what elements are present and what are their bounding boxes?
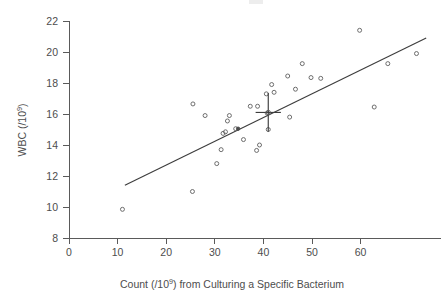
y-axis-tick-labels: 8 10 12 14 16 18 20 22: [46, 15, 58, 244]
y-tick-label-18: 18: [46, 77, 58, 89]
data-point: [255, 148, 259, 152]
x-tick-label-40: 40: [258, 246, 270, 258]
data-point: [120, 207, 124, 211]
y-tick-label-14: 14: [46, 139, 58, 151]
data-point: [300, 62, 304, 66]
data-point: [248, 104, 252, 108]
data-point: [288, 115, 292, 119]
x-axis-title-after: ) from Culturing a Specific Bacterium: [173, 278, 344, 290]
data-point: [270, 83, 274, 87]
data-point: [215, 162, 219, 166]
data-point: [236, 127, 239, 130]
data-point: [272, 90, 276, 94]
x-axis: 0 10 20 30 40 50 60: [66, 238, 441, 258]
y-tick-label-16: 16: [46, 108, 58, 120]
x-tick-label-30: 30: [209, 246, 221, 258]
scan-artifact: [249, 0, 263, 4]
data-point: [293, 87, 297, 91]
y-axis-title: WBC (/109): [15, 103, 28, 156]
data-point: [286, 74, 290, 78]
x-axis-tick-labels: 0 10 20 30 40 50 60: [66, 246, 367, 258]
data-point: [372, 105, 376, 109]
x-axis-title: Count (/109) from Culturing a Specific B…: [120, 277, 344, 290]
data-point: [414, 52, 418, 56]
y-axis-ticks: [63, 21, 69, 238]
data-point: [258, 143, 262, 147]
y-tick-label-20: 20: [46, 46, 58, 58]
data-point: [358, 28, 362, 32]
centroid-marker-layer: [256, 93, 281, 132]
x-tick-label-10: 10: [112, 246, 124, 258]
x-tick-label-60: 60: [355, 246, 367, 258]
data-point: [386, 62, 390, 66]
data-points-layer: [120, 28, 418, 211]
data-point: [227, 114, 231, 118]
y-axis: 8 10 12 14 16 18 20 22: [46, 15, 69, 244]
data-point: [241, 138, 245, 142]
data-point: [191, 102, 195, 106]
data-point: [225, 119, 229, 123]
x-tick-label-0: 0: [66, 246, 72, 258]
y-axis-title-before: WBC (/10: [16, 111, 28, 157]
data-point: [309, 76, 313, 80]
regression-line-layer: [125, 38, 426, 185]
y-axis-title-after: ): [16, 103, 28, 107]
x-tick-label-50: 50: [306, 246, 318, 258]
data-point: [256, 104, 260, 108]
y-tick-label-10: 10: [46, 201, 58, 213]
x-axis-ticks: [69, 238, 361, 244]
data-point: [203, 114, 207, 118]
y-tick-label-22: 22: [46, 15, 58, 27]
x-axis-title-before: Count (/10: [120, 278, 169, 290]
plot-canvas: 8 10 12 14 16 18 20 22 0: [0, 0, 445, 299]
data-point: [219, 148, 223, 152]
y-tick-label-12: 12: [46, 170, 58, 182]
regression-line: [125, 38, 426, 185]
data-point: [319, 76, 323, 80]
scatter-plot-figure: 8 10 12 14 16 18 20 22 0: [0, 0, 445, 299]
data-point: [190, 190, 194, 194]
y-tick-label-8: 8: [52, 232, 58, 244]
x-tick-label-20: 20: [160, 246, 172, 258]
